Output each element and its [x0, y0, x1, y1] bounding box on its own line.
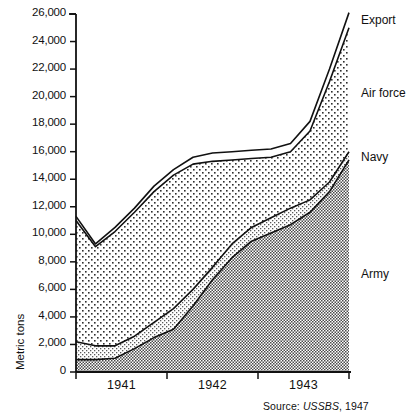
- source-suffix: , 1947: [339, 400, 369, 412]
- series-label-air-force: Air force: [361, 86, 406, 100]
- source-prefix: Source:: [263, 400, 303, 412]
- series-label-army: Army: [361, 267, 389, 281]
- x-axis-tick-label: 1942: [173, 378, 253, 392]
- x-axis-tick-label: 1943: [264, 378, 344, 392]
- x-axis-tick-label: 1941: [82, 378, 162, 392]
- source-note: Source: USSBS, 1947: [263, 400, 369, 412]
- series-label-navy: Navy: [361, 150, 388, 164]
- stacked-area-plot: [0, 0, 420, 420]
- series-label-export: Export: [361, 13, 396, 27]
- source-org: USSBS: [303, 400, 339, 412]
- chart-container: 26,00024,00022,00020,00018,00016,00014,0…: [0, 0, 420, 420]
